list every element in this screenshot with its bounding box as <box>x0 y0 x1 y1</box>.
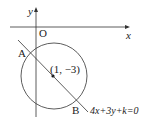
diagram-canvas: y x O (1, −3) A B 4x+3y+k=0 <box>0 0 161 124</box>
point-b-label: B <box>72 104 79 116</box>
origin-label: O <box>39 27 47 39</box>
line-equation: 4x+3y+k=0 <box>90 105 139 116</box>
y-axis <box>34 7 38 117</box>
center-label: (1, −3) <box>50 63 80 76</box>
x-axis <box>10 25 130 29</box>
line <box>18 40 88 112</box>
x-axis-label: x <box>125 29 131 41</box>
y-axis-label: y <box>27 5 33 17</box>
point-a-label: A <box>18 47 26 59</box>
